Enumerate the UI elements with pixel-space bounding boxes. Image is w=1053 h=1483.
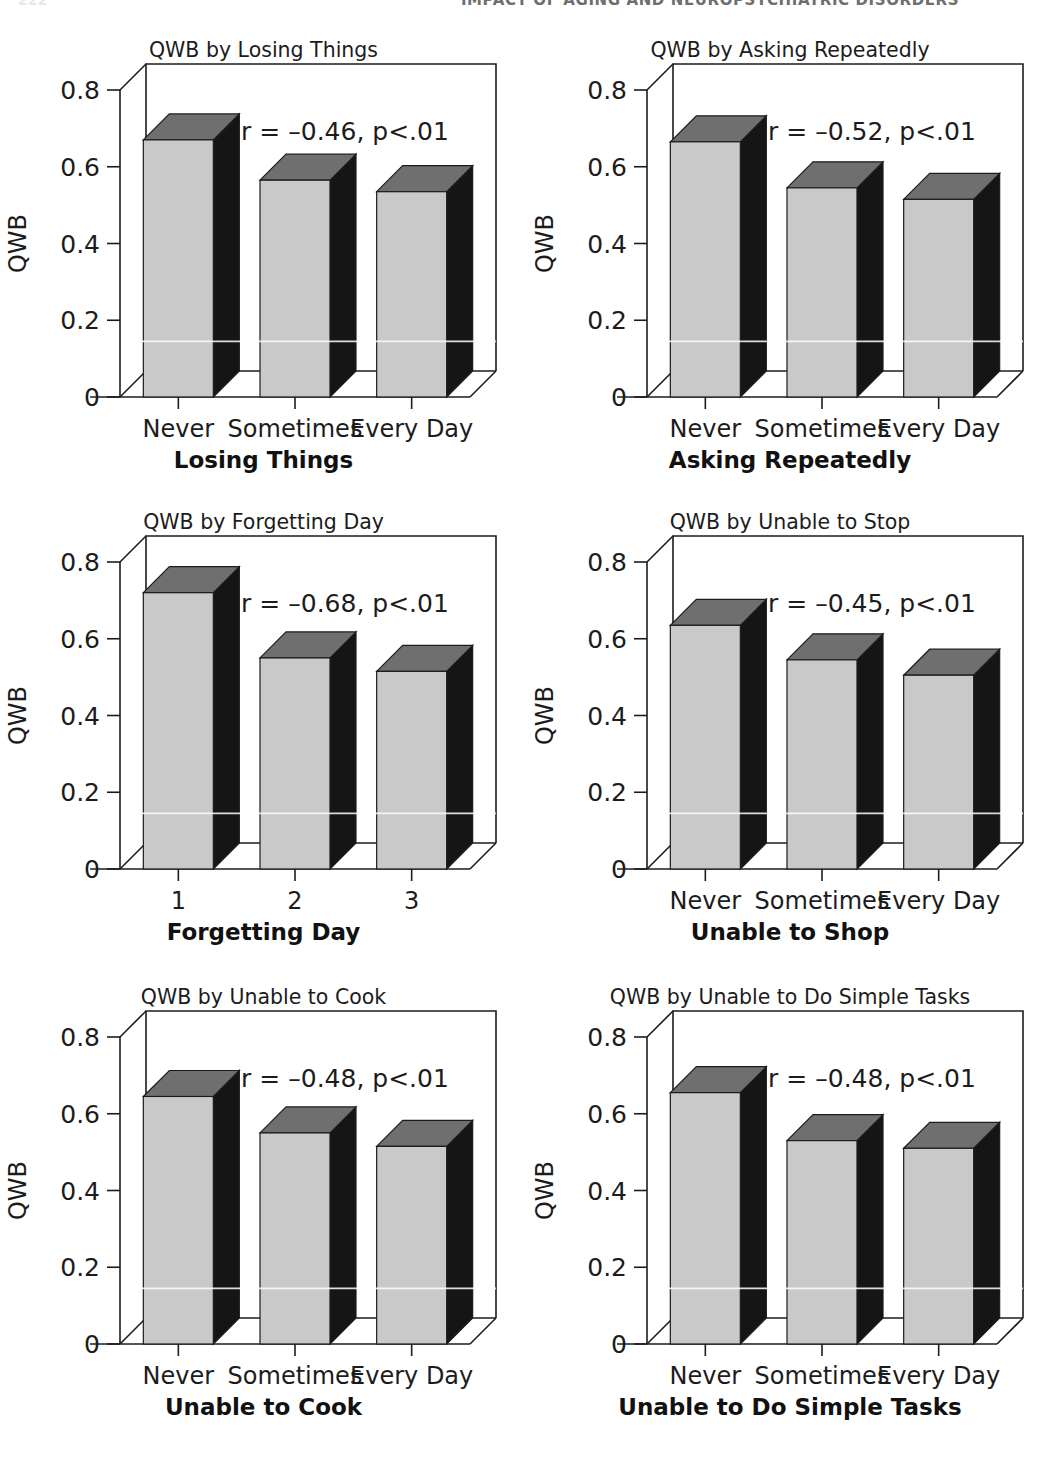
bar-front-face bbox=[670, 625, 740, 869]
x-tick-label: Every Day bbox=[877, 887, 1000, 915]
correlation-annotation: r = –0.46, p<.01 bbox=[241, 117, 449, 146]
bar-never bbox=[670, 1067, 766, 1344]
chart-svg-forgetting-day: 00.20.40.60.8QWB123r = –0.68, p<.01 bbox=[0, 534, 500, 894]
bars bbox=[143, 114, 472, 409]
bar-front-face bbox=[377, 192, 447, 397]
y-axis-title: QWB bbox=[4, 686, 32, 745]
plot-area: 00.20.40.60.8QWBNeverSometimesEvery Dayr… bbox=[527, 62, 1053, 422]
bar-front-face bbox=[670, 1093, 740, 1344]
bar-side-face bbox=[447, 645, 473, 869]
chart-svg-unable-to-do-simple-tasks: 00.20.40.60.8QWBNeverSometimesEvery Dayr… bbox=[527, 1009, 1027, 1369]
bar-side-face bbox=[213, 567, 239, 869]
bar-never bbox=[670, 599, 766, 869]
y-tick-label: 0.6 bbox=[587, 153, 627, 182]
y-tick-label: 0 bbox=[611, 1330, 627, 1359]
bars bbox=[670, 116, 999, 409]
x-axis-title: Losing Things bbox=[0, 447, 527, 473]
bar-every-day bbox=[904, 649, 1000, 869]
x-tick-label: Sometimes bbox=[755, 415, 890, 443]
y-tick-label: 0.6 bbox=[60, 625, 100, 654]
bar-never bbox=[143, 114, 239, 397]
bar-sometimes bbox=[260, 1107, 356, 1344]
chart-svg-unable-to-stop: 00.20.40.60.8QWBNeverSometimesEvery Dayr… bbox=[527, 534, 1027, 894]
page-number: 222 bbox=[18, 0, 47, 8]
y-tick-label: 0.8 bbox=[60, 1023, 100, 1052]
y-axis-title: QWB bbox=[531, 1161, 559, 1220]
bars bbox=[143, 1070, 472, 1356]
bar-every-day bbox=[904, 173, 1000, 397]
chart-panel-forgetting-day: QWB by Forgetting Day00.20.40.60.8QWB123… bbox=[0, 494, 527, 969]
x-tick-label: 3 bbox=[404, 887, 419, 915]
bar-side-face bbox=[213, 114, 239, 397]
x-tick-label: 1 bbox=[171, 887, 186, 915]
y-tick-label: 0.2 bbox=[587, 778, 627, 807]
x-axis-categories: NeverSometimesEvery Day bbox=[670, 1362, 1001, 1390]
y-tick-label: 0.2 bbox=[60, 306, 100, 335]
y-tick-label: 0 bbox=[84, 855, 100, 884]
plot-area: 00.20.40.60.8QWBNeverSometimesEvery Dayr… bbox=[527, 1009, 1053, 1369]
chart-panel-losing-things: QWB by Losing Things00.20.40.60.8QWBNeve… bbox=[0, 22, 527, 494]
panel-body: QWB by Unable to Stop00.20.40.60.8QWBNev… bbox=[527, 494, 1053, 969]
x-tick-label: Every Day bbox=[350, 1362, 473, 1390]
bar-front-face bbox=[904, 199, 974, 397]
panel-body: QWB by Unable to Do Simple Tasks00.20.40… bbox=[527, 969, 1053, 1451]
bar-front-face bbox=[260, 1133, 330, 1344]
y-tick-label: 0.4 bbox=[60, 702, 100, 731]
y-tick-label: 0.4 bbox=[587, 230, 627, 259]
x-tick-label: Sometimes bbox=[755, 887, 890, 915]
bar-front-face bbox=[904, 675, 974, 869]
x-tick-label: Never bbox=[670, 887, 742, 915]
bars bbox=[670, 1067, 999, 1356]
y-axis-ticks: 00.20.40.60.8 bbox=[60, 548, 120, 884]
correlation-annotation: r = –0.48, p<.01 bbox=[768, 1064, 976, 1093]
bar-every-day bbox=[377, 1120, 473, 1344]
bar-front-face bbox=[260, 180, 330, 397]
y-tick-label: 0.4 bbox=[587, 702, 627, 731]
bar-front-face bbox=[377, 671, 447, 869]
bar-side-face bbox=[974, 649, 1000, 869]
y-tick-label: 0.4 bbox=[60, 1177, 100, 1206]
bar-front-face bbox=[377, 1146, 447, 1344]
y-tick-label: 0.2 bbox=[60, 778, 100, 807]
bar-never bbox=[670, 116, 766, 397]
x-tick-label: 2 bbox=[287, 887, 302, 915]
x-tick-label: Never bbox=[143, 1362, 215, 1390]
y-tick-label: 0.8 bbox=[587, 1023, 627, 1052]
y-tick-label: 0 bbox=[84, 383, 100, 412]
plot-area: 00.20.40.60.8QWBNeverSometimesEvery Dayr… bbox=[0, 1009, 527, 1369]
y-tick-label: 0 bbox=[611, 383, 627, 412]
bar-side-face bbox=[857, 162, 883, 397]
correlation-annotation: r = –0.48, p<.01 bbox=[241, 1064, 449, 1093]
y-axis-ticks: 00.20.40.60.8 bbox=[587, 1023, 647, 1359]
x-axis-title: Unable to Shop bbox=[527, 919, 1053, 945]
bar-side-face bbox=[330, 1107, 356, 1344]
bar-side-face bbox=[740, 116, 766, 397]
x-tick-label: Never bbox=[670, 415, 742, 443]
bar-front-face bbox=[260, 658, 330, 869]
panel-body: QWB by Unable to Cook00.20.40.60.8QWBNev… bbox=[0, 969, 527, 1451]
x-axis-title: Unable to Do Simple Tasks bbox=[527, 1394, 1053, 1420]
figure-panel-grid: QWB by Losing Things00.20.40.60.8QWBNeve… bbox=[0, 22, 1053, 1451]
correlation-annotation: r = –0.52, p<.01 bbox=[768, 117, 976, 146]
x-axis-title: Asking Repeatedly bbox=[527, 447, 1053, 473]
x-tick-label: Never bbox=[670, 1362, 742, 1390]
bar-every-day bbox=[377, 166, 473, 397]
bar-1 bbox=[143, 567, 239, 869]
x-tick-label: Every Day bbox=[350, 415, 473, 443]
bar-2 bbox=[260, 632, 356, 869]
x-tick-label: Every Day bbox=[877, 1362, 1000, 1390]
y-tick-label: 0.4 bbox=[587, 1177, 627, 1206]
panel-body: QWB by Asking Repeatedly00.20.40.60.8QWB… bbox=[527, 22, 1053, 494]
bar-side-face bbox=[857, 634, 883, 869]
correlation-annotation: r = –0.45, p<.01 bbox=[768, 589, 976, 618]
bar-sometimes bbox=[260, 154, 356, 397]
y-tick-label: 0.2 bbox=[587, 1253, 627, 1282]
y-tick-label: 0.8 bbox=[60, 76, 100, 105]
y-tick-label: 0.6 bbox=[60, 153, 100, 182]
chart-title: QWB by Losing Things bbox=[0, 38, 527, 62]
bar-side-face bbox=[740, 599, 766, 869]
panel-body: QWB by Forgetting Day00.20.40.60.8QWB123… bbox=[0, 494, 527, 969]
y-axis-ticks: 00.20.40.60.8 bbox=[60, 1023, 120, 1359]
bars bbox=[670, 599, 999, 881]
chart-title: QWB by Asking Repeatedly bbox=[527, 38, 1053, 62]
